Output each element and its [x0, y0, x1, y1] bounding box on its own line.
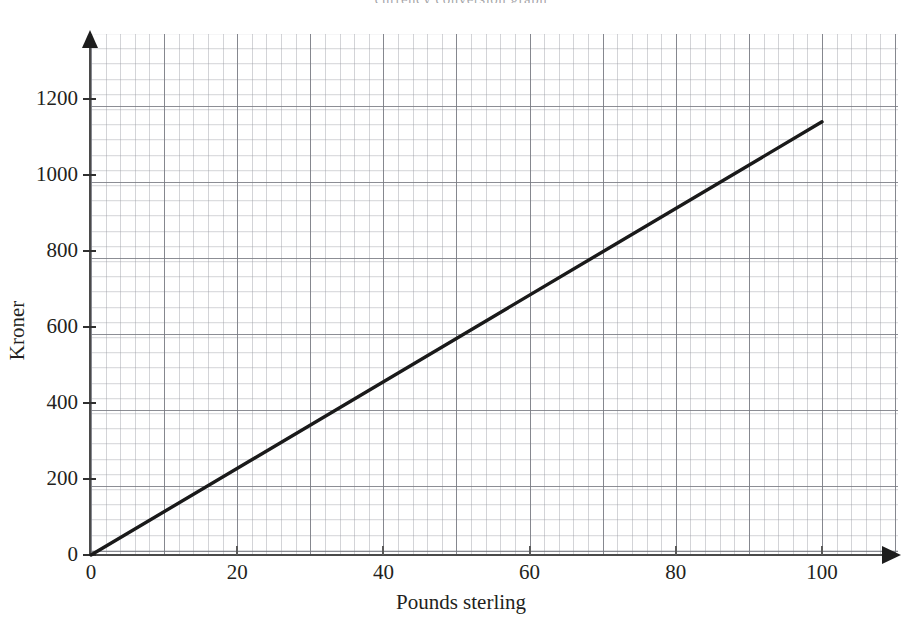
x-tick-label: 100: [782, 562, 862, 583]
x-tick-label: 40: [343, 562, 423, 583]
y-tick-mark: [83, 98, 96, 100]
x-tick-label: 80: [636, 562, 716, 583]
x-tick-label: 0: [51, 562, 131, 583]
x-tick-label: 20: [197, 562, 277, 583]
x-axis-title: Pounds sterling: [0, 590, 922, 615]
page-header-ghost-text: currency conversion graph: [0, 0, 922, 3]
y-tick-mark: [83, 250, 96, 252]
x-tick-mark: [821, 546, 823, 555]
y-tick-label: 200: [47, 468, 79, 489]
plot-area-grid: [91, 34, 898, 555]
y-tick-mark: [83, 174, 96, 176]
y-tick-mark: [83, 326, 96, 328]
x-tick-mark: [675, 546, 677, 555]
x-tick-mark: [236, 546, 238, 555]
y-axis-title: Kroner: [5, 281, 30, 381]
x-axis-line: [90, 554, 890, 556]
y-tick-mark: [83, 554, 96, 556]
y-tick-label: 1200: [36, 88, 78, 109]
x-tick-mark: [382, 546, 384, 555]
y-tick-label: 400: [47, 392, 79, 413]
x-tick-label: 60: [490, 562, 570, 583]
conversion-graph: currency conversion graph 02004006008001…: [0, 0, 922, 621]
y-tick-label: 1000: [36, 164, 78, 185]
y-tick-mark: [83, 478, 96, 480]
y-tick-label: 600: [47, 316, 79, 337]
y-tick-label: 800: [47, 240, 79, 261]
x-axis-arrow-icon: [882, 546, 901, 564]
y-tick-mark: [83, 402, 96, 404]
x-tick-mark: [529, 546, 531, 555]
y-axis-arrow-icon: [82, 30, 98, 48]
